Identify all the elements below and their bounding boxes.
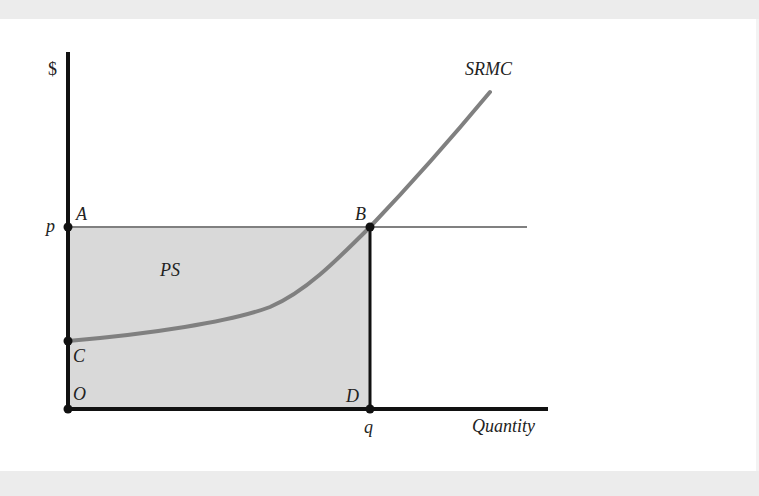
ps-region-label: PS [159,260,180,280]
label-b: B [355,204,366,224]
point-d [366,405,375,414]
y-axis-label: $ [48,59,57,79]
label-c: C [73,346,86,366]
x-axis-label: Quantity [472,416,535,436]
label-o: O [73,384,86,404]
label-d: D [345,386,359,406]
srmc-label: SRMC [465,59,513,79]
producer-surplus-region [68,227,370,409]
quantity-tick-label: q [364,417,373,437]
point-c [64,337,73,346]
producer-surplus-diagram: $ p A B C O D q Quantity SRMC PS [0,0,759,496]
point-a [64,223,73,232]
point-o [64,405,73,414]
label-a: A [75,204,88,224]
price-tick-label: p [44,216,55,236]
point-b [366,223,375,232]
